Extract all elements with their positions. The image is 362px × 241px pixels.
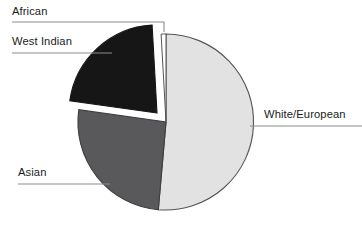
pie-chart-figure: African West Indian Asian White/European <box>0 0 362 241</box>
pie-slice-west-indian[interactable] <box>70 25 157 113</box>
pie-slice-asian[interactable] <box>78 110 166 210</box>
pie-slice-white-european[interactable] <box>158 34 253 210</box>
pie-label-west-indian: West Indian <box>12 35 72 48</box>
pie-slice-west-indian-group <box>70 25 157 113</box>
pie-label-asian: Asian <box>18 166 47 179</box>
pie-slice-african[interactable] <box>161 34 166 122</box>
pie-label-african: African <box>12 5 48 18</box>
pie-label-white-european: White/European <box>264 108 346 121</box>
